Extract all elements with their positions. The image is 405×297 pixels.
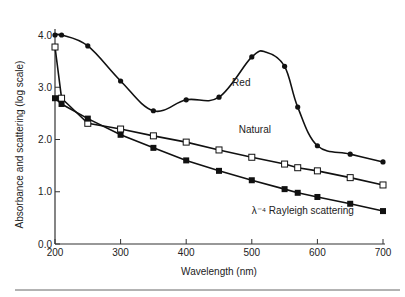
data-point (347, 175, 353, 181)
x-tick-label: 700 (375, 247, 392, 258)
series-layer (52, 32, 386, 214)
y-axis-label: Absorbance and scattering (log scale) (14, 61, 25, 229)
x-tick-label: 300 (112, 247, 129, 258)
data-point (52, 95, 58, 101)
data-point (150, 133, 156, 139)
data-point (52, 44, 58, 50)
y-tick-label: 1.0 (38, 186, 52, 197)
data-point (314, 168, 320, 174)
x-axis-label: Wavelength (nm) (181, 266, 257, 277)
data-point (315, 143, 320, 148)
data-point (295, 190, 301, 196)
data-point (118, 126, 124, 132)
data-point (183, 157, 189, 163)
data-point (282, 64, 287, 69)
data-point (282, 161, 288, 167)
data-point (151, 108, 156, 113)
series-red (52, 32, 385, 164)
data-point (249, 54, 254, 59)
labels-layer: RedNaturalλ⁻⁴ Rayleigh scattering (232, 77, 354, 216)
data-point (184, 97, 189, 102)
series-line (55, 98, 383, 211)
data-point (295, 165, 301, 171)
data-point (249, 177, 255, 183)
data-point (150, 145, 156, 151)
data-point (314, 194, 320, 200)
x-tick-label: 600 (309, 247, 326, 258)
data-point (59, 95, 65, 101)
series-line (55, 47, 383, 185)
x-tick-label: 400 (178, 247, 195, 258)
chart: 0.01.02.03.04.0200300400500600700Wavelen… (0, 0, 405, 297)
data-point (59, 32, 64, 37)
data-point (118, 78, 123, 83)
series--rayleigh-scattering (52, 95, 386, 214)
data-point (380, 159, 385, 164)
x-tick-label: 200 (47, 247, 64, 258)
data-point (380, 208, 386, 214)
y-tick-label: 3.0 (38, 82, 52, 93)
data-point (52, 32, 57, 37)
series-annotation: Red (232, 77, 250, 88)
data-point (380, 182, 386, 188)
data-point (183, 139, 189, 145)
series-natural (52, 44, 386, 188)
data-point (282, 186, 288, 192)
data-point (216, 147, 222, 153)
data-point (85, 116, 91, 122)
data-point (348, 152, 353, 157)
data-point (249, 154, 255, 160)
data-point (85, 43, 90, 48)
data-point (216, 168, 222, 174)
y-tick-label: 4.0 (38, 30, 52, 41)
series-annotation: λ⁻⁴ Rayleigh scattering (252, 205, 354, 216)
data-point (118, 132, 124, 138)
x-tick-label: 500 (243, 247, 260, 258)
data-point (59, 101, 65, 107)
data-point (295, 105, 300, 110)
series-annotation: Natural (239, 124, 271, 135)
y-tick-label: 2.0 (38, 134, 52, 145)
data-point (216, 95, 221, 100)
